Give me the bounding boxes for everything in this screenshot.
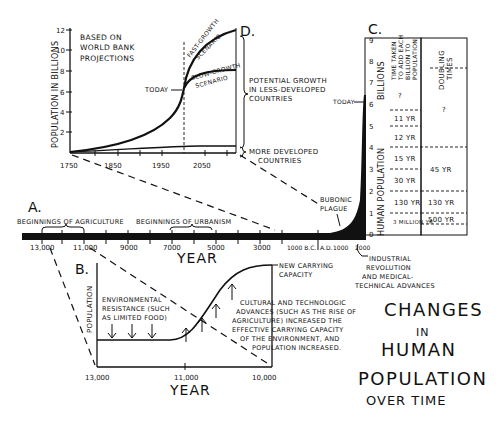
diagram-title: CHANGES IN HUMAN POPULATION OVER TIME [358,299,487,408]
b-advances-label: AGRICULTURE) INCREASED THE [232,317,342,325]
svg-text:7: 7 [369,79,373,87]
c-doubling-time: 130 YR [428,199,455,207]
c-doubling-time: 500 YR [428,216,455,224]
b-resistance-label: RESISTANCE (SUCH [102,305,170,313]
c-col1-header: TIME TAKEN [390,41,397,81]
panel-b-letter: B. [75,261,89,277]
panel-d: 2 4 6 8 10 12 1750 1850 1950 2050 POPULA… [51,17,327,170]
svg-text:2: 2 [369,188,373,196]
d-x-tick: 1950 [152,162,170,170]
b-capacity-label: CAPACITY [279,271,313,279]
c-col1-header: POPULATION [411,39,418,80]
b-advances-label: ADVANCES (SUCH AS THE RISE OF [236,308,356,316]
d-x-tick: 2050 [193,162,211,170]
title-line: HUMAN [381,339,457,360]
d-less-dev-label: POTENTIAL GROWTH [249,77,327,85]
a-tick: 9000 [120,244,138,252]
a-tick: 3000 [253,244,271,252]
b-resistance-label: ENVIRONMENTAL [102,296,162,304]
b-y-label: POPULATION [86,286,94,333]
b-x-label: YEAR [169,382,211,398]
b-tick: 13,000 [85,374,110,382]
panel-a-letter: A. [28,199,42,215]
d-y-tick: 2 [60,129,64,137]
svg-text:0: 0 [369,231,373,239]
d-less-dev-label: IN LESS-DEVELOPED [249,86,326,94]
d-less-developed-brace [240,36,248,148]
b-down-arrows [108,324,156,338]
c-billion-time: 11 YR [394,115,416,123]
c-billion-time: ? [398,92,402,100]
c-billion-time: 130 YR [394,199,421,207]
c-y-ticks: 0 1 2 3 4 5 6 7 8 9 [369,37,374,239]
d-y-tick: 6 [60,89,65,97]
b-advances-label: CULTURAL AND TECHNOLOGIC [240,299,346,307]
a-industrial-label: INDUSTRIAL [369,255,411,263]
a-tick: 1000 [333,244,348,251]
a-plague-label: BUBONIC [320,196,352,204]
panel-c-letter: C. [368,21,382,37]
a-urbanism-label: BEGINNINGS OF URBANISM [136,218,231,226]
d-today-label: TODAY [144,86,168,94]
title-line: IN [416,326,429,339]
a-x-label: YEAR [176,250,218,266]
c-doubling-time: ? [442,106,446,114]
d-note: WORLD BANK [80,43,135,52]
c-y-label-billions: BILLIONS [377,61,386,100]
b-tick: 11,000 [174,374,199,382]
a-industrial-label: TECHNICAL ADVANCES [354,282,435,290]
a-agriculture-label: BEGINNINGS OF AGRICULTURE [17,218,124,226]
b-up-arrows [182,284,236,342]
d-historical-curve [70,88,184,152]
c-col1-header: BILLION TO [404,43,411,80]
a-industrial-label: REVOLUTION [366,264,411,272]
svg-text:5: 5 [369,123,373,131]
d-y-tick: 8 [60,68,64,76]
c-col1-header: TO ADD EACH [397,35,404,81]
d-x-tick: 1850 [104,162,122,170]
svg-text:8: 8 [369,58,373,66]
b-advances-label: EFFECTIVE CARRYING CAPACITY [232,326,344,334]
b-resistance-label: AS LIMITED FOOD) [102,314,167,322]
d-y-tick: 12 [56,27,65,35]
a-industrial-label: AND MEDICAL- [362,273,414,281]
svg-text:3: 3 [369,166,373,174]
c-billion-time: 15 YR [394,155,416,163]
d-x-tick: 1750 [60,162,78,170]
c-billion-time: 30 YR [394,177,416,185]
population-diagram: 2 4 6 8 10 12 1750 1850 1950 2050 POPULA… [0,0,498,423]
b-advances-label: POPULATION INCREASED. [252,344,341,352]
c-col2-header: TIMES [446,57,454,81]
c-billion-time: 12 YR [394,134,416,142]
c-doubling-time: 45 YR [430,166,452,174]
title-line: OVER TIME [366,393,446,408]
d-y-tick: 4 [60,109,65,117]
c-y-label: HUMAN POPULATION [377,148,386,236]
a-tick: A.D. [320,244,333,251]
d-less-dev-label: COUNTRIES [249,95,293,103]
svg-text:6: 6 [369,101,374,109]
d-note: BASED ON [80,33,122,42]
a-tick: 1000 B.C. [287,244,316,251]
panel-c: C. 0 1 2 3 4 5 6 7 8 9 HUMAN POPULATION … [332,21,467,239]
b-tick: 10,000 [252,374,277,382]
svg-text:1: 1 [369,210,373,218]
a-plague-arrow [337,214,340,226]
c-today-label: TODAY [332,98,355,105]
title-line: CHANGES [384,299,483,320]
a-plague-label: PLAGUE [320,205,348,213]
b-capacity-label: NEW CARRYING [279,262,333,270]
d-note: PROJECTIONS [80,54,134,63]
d-more-dev-label: MORE DEVELOPED [249,148,318,156]
b-advances-label: OF THE ENVIRONMENT, AND [240,335,340,343]
svg-text:4: 4 [369,144,374,152]
d-y-label: POPULATION IN BILLIONS [51,41,60,148]
title-line: POPULATION [358,368,487,389]
d-more-dev-label: COUNTRIES [258,157,302,165]
c-col2-header: DOUBLING [438,50,446,90]
svg-text:9: 9 [369,37,373,45]
